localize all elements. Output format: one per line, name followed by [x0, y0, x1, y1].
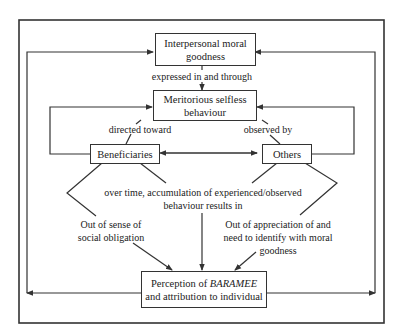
node-moral-goodness: Interpersonal moral goodness	[155, 33, 256, 66]
node-others: Others	[262, 144, 312, 164]
node-moral-goodness-label: Interpersonal moral goodness	[156, 37, 255, 63]
node-perception: Perception of BARAMEE and attribution to…	[141, 271, 267, 308]
edge-label-observed: observed by	[233, 123, 303, 136]
node-beneficiaries-label: Beneficiaries	[97, 148, 152, 161]
edge-label-appreciation: Out of appreciation of and need to ident…	[222, 218, 334, 257]
node-behaviour: Meritorious selfless behaviour	[153, 90, 257, 121]
node-behaviour-label: Meritorious selfless behaviour	[154, 93, 256, 119]
node-perception-line2: and attribution to individual	[145, 290, 263, 303]
edge-label-directed: directed toward	[100, 123, 180, 136]
perception-term: BARAMEE	[210, 278, 257, 289]
perception-prefix: Perception of	[151, 278, 210, 289]
node-beneficiaries: Beneficiaries	[90, 144, 160, 164]
edge-label-expressed: expressed in and through	[145, 70, 259, 83]
edge-label-accumulation: over time, accumulation of experienced/o…	[98, 186, 308, 212]
node-perception-line1: Perception of BARAMEE	[151, 277, 257, 290]
node-others-label: Others	[273, 148, 301, 161]
edge-label-obligation: Out of sense of social obligation	[72, 218, 150, 244]
